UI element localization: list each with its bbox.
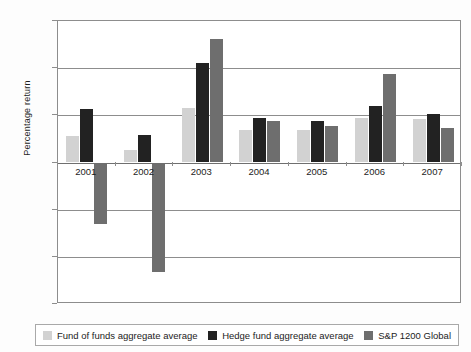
legend-swatch-icon xyxy=(43,331,52,340)
legend-item-2[interactable]: S&P 1200 Global xyxy=(364,330,451,341)
chart-legend: Fund of funds aggregate averageHedge fun… xyxy=(35,324,459,346)
bar-group-2007 xyxy=(404,21,462,302)
legend-label: Fund of funds aggregate average xyxy=(57,330,198,341)
x-tick-label-2006: 2006 xyxy=(344,166,404,177)
x-tick-mark xyxy=(461,162,462,166)
bar-2006-series-2 xyxy=(383,74,396,162)
legend-swatch-icon xyxy=(208,331,217,340)
legend-label: S&P 1200 Global xyxy=(378,330,451,341)
bar-2002-series-0 xyxy=(124,150,137,162)
bar-2001-series-1 xyxy=(80,109,93,162)
bar-2002-series-2 xyxy=(152,163,165,273)
bar-2005-series-1 xyxy=(311,121,324,163)
bar-2007-series-1 xyxy=(427,114,440,163)
bar-2003-series-1 xyxy=(196,63,209,163)
bar-2003-series-0 xyxy=(182,108,195,162)
bar-2006-series-0 xyxy=(355,118,368,163)
x-tick-label-2004: 2004 xyxy=(229,166,289,177)
bar-group-2001 xyxy=(58,21,116,302)
legend-item-0[interactable]: Fund of funds aggregate average xyxy=(43,330,198,341)
bar-2005-series-2 xyxy=(325,126,338,162)
x-tick-label-2001: 2001 xyxy=(56,166,116,177)
bar-group-2003 xyxy=(173,21,231,302)
legend-swatch-icon xyxy=(364,331,373,340)
legend-label: Hedge fund aggregate average xyxy=(222,330,354,341)
y-tick-mark xyxy=(52,303,57,304)
bar-2004-series-2 xyxy=(267,121,280,163)
bar-group-2002 xyxy=(116,21,174,302)
bar-2007-series-0 xyxy=(413,119,426,162)
bar-2002-series-1 xyxy=(138,135,151,162)
bar-2003-series-2 xyxy=(210,39,223,162)
legend-item-1[interactable]: Hedge fund aggregate average xyxy=(208,330,354,341)
bar-2001-series-0 xyxy=(66,136,79,163)
x-tick-label-2003: 2003 xyxy=(171,166,231,177)
bar-2005-series-0 xyxy=(297,130,310,162)
chart-figure: Percentage return 30%20%10%0%−10%−20%−30… xyxy=(0,0,471,352)
bar-group-2005 xyxy=(289,21,347,302)
bar-group-2004 xyxy=(231,21,289,302)
bar-2006-series-1 xyxy=(369,106,382,163)
plot-area xyxy=(57,20,461,303)
bar-2007-series-2 xyxy=(441,128,454,162)
x-tick-label-2002: 2002 xyxy=(114,166,174,177)
bar-group-2006 xyxy=(347,21,405,302)
x-tick-label-2007: 2007 xyxy=(402,166,462,177)
bar-2004-series-1 xyxy=(253,118,266,162)
x-tick-label-2005: 2005 xyxy=(287,166,347,177)
y-axis-title: Percentage return xyxy=(22,43,32,193)
bar-2004-series-0 xyxy=(239,130,252,162)
